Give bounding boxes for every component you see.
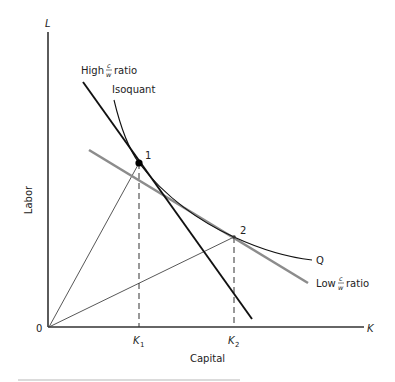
point-2-label: 2 [240,225,246,236]
svg-text:c: c [339,275,343,283]
y-axis-title: Labor [23,185,34,214]
low-ratio-label: Low c w ratio [316,275,369,292]
origin-label: 0 [36,323,42,334]
svg-text:ratio: ratio [114,65,137,76]
svg-text:High: High [81,65,104,76]
ray-to-point-2 [49,237,234,327]
svg-text:ratio: ratio [346,278,369,289]
low-ratio-line [89,150,308,283]
svg-text:1: 1 [140,341,144,349]
isoquant-annotation: Isoquant [112,84,155,95]
svg-text:w: w [338,284,344,292]
svg-text:w: w [106,71,112,79]
svg-text:2: 2 [235,341,239,349]
isoquant-curve [114,100,312,260]
svg-text:Low: Low [316,278,336,289]
point-1-marker [135,159,142,166]
point-1-label: 1 [145,150,151,161]
point-2-marker [232,235,236,239]
k2-tick-label: K 2 [228,335,239,349]
svg-text:c: c [107,62,111,70]
ray-to-point-1 [49,163,139,327]
k1-tick-label: K 1 [133,335,144,349]
isoquant-diagram: L K 0 1 2 Isoquant Q High c w ratio Low … [0,0,395,382]
isoquant-q-label: Q [316,255,324,266]
high-ratio-label: High c w ratio [81,62,137,79]
x-axis-symbol: K [367,323,375,334]
high-ratio-line [83,82,252,319]
x-axis-title: Capital [190,353,225,364]
y-axis-symbol: L [45,18,51,29]
